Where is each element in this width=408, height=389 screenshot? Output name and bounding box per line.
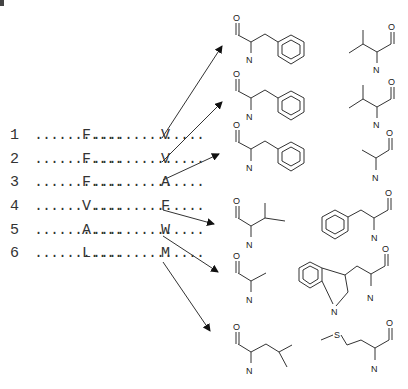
svg-text:N: N xyxy=(371,233,378,243)
alanine-structure-1: O N xyxy=(362,128,393,183)
svg-text:N: N xyxy=(246,366,253,376)
methionine-structure: S O N xyxy=(321,318,393,374)
structure-diagram: O N O N O N xyxy=(0,0,408,389)
arrow-row-1 xyxy=(162,46,222,138)
valine-structure-1: O N xyxy=(349,22,395,75)
svg-text:O: O xyxy=(385,188,392,198)
svg-text:N: N xyxy=(372,173,379,183)
svg-text:N: N xyxy=(246,112,253,122)
svg-text:O: O xyxy=(233,120,240,130)
svg-text:N: N xyxy=(246,240,253,250)
valine-structure-2: O N xyxy=(349,77,395,130)
leucine-structure: O N xyxy=(233,322,292,376)
svg-text:S: S xyxy=(334,330,340,340)
svg-text:O: O xyxy=(233,251,240,261)
svg-text:O: O xyxy=(233,196,240,206)
arrow-row-4 xyxy=(163,210,214,224)
svg-text:O: O xyxy=(388,77,395,87)
svg-text:N: N xyxy=(367,293,374,303)
svg-text:O: O xyxy=(233,13,240,23)
svg-text:N: N xyxy=(371,364,378,374)
svg-text:N: N xyxy=(246,295,253,305)
arrow-row-3 xyxy=(163,154,219,180)
svg-text:N: N xyxy=(246,163,253,173)
svg-text:O: O xyxy=(386,318,393,328)
arrow-row-2 xyxy=(162,102,222,162)
phenylalanine-structure-3: O N xyxy=(233,120,304,173)
svg-text:N: N xyxy=(331,307,338,317)
arrows xyxy=(162,46,222,331)
svg-text:O: O xyxy=(233,69,240,79)
arrow-row-6 xyxy=(163,262,210,331)
alanine-structure-2: O N xyxy=(233,251,266,305)
svg-text:N: N xyxy=(373,120,380,130)
svg-text:N: N xyxy=(246,55,253,65)
tryptophan-structure: O N N xyxy=(299,244,389,317)
arrow-row-5 xyxy=(163,236,218,272)
svg-text:O: O xyxy=(386,128,393,138)
svg-text:O: O xyxy=(388,22,395,32)
phenylalanine-structure-4: O N xyxy=(322,188,392,243)
valine-structure-3: O N xyxy=(233,196,285,250)
svg-text:O: O xyxy=(382,244,389,254)
svg-text:O: O xyxy=(233,322,240,332)
svg-text:N: N xyxy=(373,65,380,75)
phenylalanine-structure-1: O N xyxy=(233,13,304,65)
phenylalanine-structure-2: O N xyxy=(233,69,304,122)
